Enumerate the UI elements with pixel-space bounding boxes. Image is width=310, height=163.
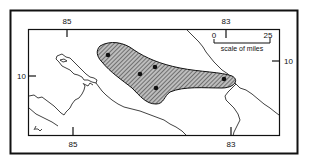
scale-bar: 0 25 scale of miles bbox=[212, 31, 273, 52]
scale-end-label: 25 bbox=[264, 31, 273, 40]
signature-mark bbox=[34, 126, 42, 131]
locality-dot bbox=[154, 86, 159, 91]
locality-dot bbox=[222, 77, 227, 82]
locality-dot bbox=[153, 65, 158, 70]
locality-dot bbox=[138, 72, 143, 77]
longitude-label-bottom-83: 83 bbox=[227, 140, 236, 149]
latitude-label-right-10: 10 bbox=[284, 57, 293, 66]
locality-dot bbox=[106, 53, 111, 58]
longitude-label-top-83: 83 bbox=[222, 17, 231, 26]
map-figure: 85 83 85 83 10 10 0 25 scale of miles bbox=[0, 0, 310, 163]
longitude-label-top-85: 85 bbox=[63, 17, 72, 26]
scale-start-label: 0 bbox=[212, 31, 217, 40]
scale-caption: scale of miles bbox=[221, 45, 264, 52]
shaded-region bbox=[97, 43, 235, 104]
longitude-label-bottom-85: 85 bbox=[69, 140, 78, 149]
latitude-label-left-10: 10 bbox=[17, 72, 26, 81]
